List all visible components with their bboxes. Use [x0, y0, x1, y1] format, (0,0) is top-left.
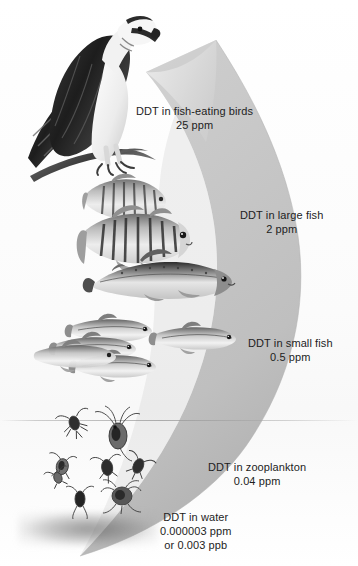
zooplankton-organism	[90, 454, 125, 486]
label-large-fish: DDT in large fish 2 ppm	[240, 208, 323, 236]
osprey-eye	[138, 27, 143, 32]
label-zooplankton: DDT in zooplankton 0.04 ppm	[208, 460, 306, 488]
label-line-2: 0.04 ppm	[208, 474, 306, 488]
label-line-2: 0.5 ppm	[248, 350, 333, 364]
zooplankton-organism	[101, 480, 141, 514]
label-line-2: 25 ppm	[136, 118, 253, 132]
large-fish-illustration	[82, 172, 242, 298]
small-fish-illustration	[50, 312, 230, 378]
perch-main	[77, 205, 192, 271]
zooplankton-organism	[66, 486, 94, 519]
label-small-fish: DDT in small fish 0.5 ppm	[248, 336, 333, 364]
label-line-3: or 0.003 ppb	[160, 538, 232, 552]
label-line-1: DDT in zooplankton	[208, 460, 306, 474]
label-line-2: 2 ppm	[240, 222, 323, 236]
label-line-1: DDT in large fish	[240, 208, 323, 222]
label-line-1: DDT in fish-eating birds	[136, 104, 253, 118]
zooplankton-organism	[55, 407, 95, 442]
biomagnification-diagram: DDT in fish-eating birds 25 ppm DDT in l…	[0, 0, 358, 566]
zooplankton-illustration	[52, 412, 172, 518]
osprey-illustration	[22, 8, 162, 184]
label-water: DDT in water 0.000003 ppm or 0.003 ppb	[160, 510, 232, 552]
label-line-2: 0.000003 ppm	[160, 524, 232, 538]
zooplankton-organism	[95, 406, 140, 461]
label-line-1: DDT in water	[160, 510, 232, 524]
label-fish-eating-birds: DDT in fish-eating birds 25 ppm	[136, 104, 253, 132]
label-line-1: DDT in small fish	[248, 336, 333, 350]
minnow	[149, 322, 236, 354]
